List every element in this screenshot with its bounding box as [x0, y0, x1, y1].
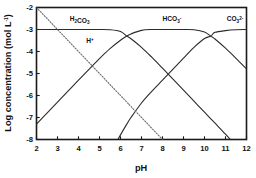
series-label-h2co3: H2CO3: [70, 15, 90, 25]
x-tick-label: 9: [181, 144, 185, 153]
series-label-co32: CO32-: [227, 15, 244, 24]
y-axis-tick-labels: -2-3-4-5-6-7-8: [26, 3, 34, 144]
x-tick-label: 6: [118, 144, 122, 153]
y-tick-label: -3: [26, 25, 33, 34]
y-tick-label: -6: [26, 91, 33, 100]
series-label-hco3: HCO3-: [163, 15, 182, 24]
y-tick-label: -8: [26, 135, 33, 144]
x-tick-label: 10: [200, 144, 208, 153]
y-tick-label: -2: [26, 3, 33, 12]
x-tick-label: 7: [139, 144, 143, 153]
x-tick-label: 8: [160, 144, 164, 153]
curve-hco3: [37, 29, 247, 124]
x-axis-title: pH: [135, 163, 148, 173]
y-tick-label: -7: [26, 113, 33, 122]
series-label-h: H+: [86, 37, 94, 44]
y-axis-title: Log concentration (mol L-1): [3, 14, 13, 131]
x-tick-label: 5: [97, 144, 102, 153]
x-tick-label: 2: [34, 144, 38, 153]
y-tick-label: -4: [26, 47, 34, 56]
y-tick-label: -5: [26, 69, 34, 78]
plot-frame: [37, 8, 247, 140]
chart-figure: 23456789101112 -2-3-4-5-6-7-8 H2CO3HCO3-…: [0, 0, 256, 178]
x-tick-label: 12: [242, 144, 250, 153]
x-tick-label: 3: [55, 144, 59, 153]
bjerrum-plot: 23456789101112 -2-3-4-5-6-7-8 H2CO3HCO3-…: [0, 0, 256, 178]
x-tick-label: 11: [221, 144, 230, 153]
x-tick-label: 4: [76, 144, 81, 153]
curve-co32: [100, 30, 247, 176]
x-axis-tick-labels: 23456789101112: [34, 144, 250, 153]
